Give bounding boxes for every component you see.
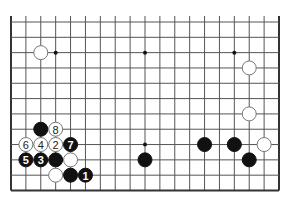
black-stone bbox=[64, 168, 78, 182]
white-stone bbox=[242, 61, 256, 75]
star-point bbox=[54, 51, 58, 55]
move-number-label: 5 bbox=[23, 154, 29, 166]
white-stone-disc bbox=[242, 107, 256, 121]
white-stone: 2 bbox=[49, 138, 63, 152]
white-stone bbox=[257, 138, 271, 152]
move-number-label: 8 bbox=[53, 124, 59, 136]
black-stone bbox=[138, 153, 152, 167]
move-number-label: 6 bbox=[23, 139, 29, 151]
move-number-label: 1 bbox=[82, 170, 88, 182]
black-stone-disc bbox=[49, 153, 63, 167]
black-stone bbox=[49, 153, 63, 167]
white-stone-disc bbox=[49, 168, 63, 182]
black-stone bbox=[242, 153, 256, 167]
black-stone-disc bbox=[138, 153, 152, 167]
black-stone: 7 bbox=[64, 138, 78, 152]
star-point bbox=[232, 51, 236, 55]
white-stone bbox=[49, 168, 63, 182]
white-stone-disc bbox=[34, 46, 48, 60]
move-number-label: 7 bbox=[67, 139, 73, 151]
black-stone: 1 bbox=[78, 168, 92, 182]
black-stone bbox=[227, 138, 241, 152]
white-stone bbox=[242, 107, 256, 121]
move-number-label: 2 bbox=[53, 139, 59, 151]
white-stone: 4 bbox=[34, 138, 48, 152]
black-stone-disc bbox=[198, 138, 212, 152]
black-stone: 5 bbox=[19, 153, 33, 167]
white-stone: 8 bbox=[49, 122, 63, 136]
white-stone bbox=[34, 46, 48, 60]
move-number-label: 4 bbox=[38, 139, 44, 151]
black-stone bbox=[34, 122, 48, 136]
black-stone bbox=[198, 138, 212, 152]
black-stone: 3 bbox=[34, 153, 48, 167]
white-stone: 6 bbox=[19, 138, 33, 152]
black-stone-disc bbox=[227, 138, 241, 152]
move-number-label: 3 bbox=[38, 154, 44, 166]
white-stone-disc bbox=[242, 61, 256, 75]
black-stone-disc bbox=[64, 168, 78, 182]
star-point bbox=[143, 143, 147, 147]
star-point bbox=[143, 51, 147, 55]
go-board: 86427531 bbox=[0, 0, 289, 204]
white-stone-disc bbox=[257, 138, 271, 152]
white-stone bbox=[64, 153, 78, 167]
black-stone-disc bbox=[242, 153, 256, 167]
white-stone-disc bbox=[64, 153, 78, 167]
black-stone-disc bbox=[34, 122, 48, 136]
